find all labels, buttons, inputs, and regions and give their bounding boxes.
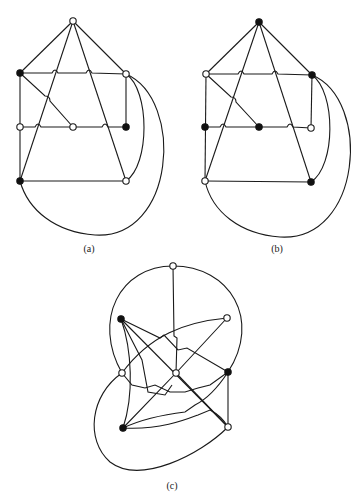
edge (206, 22, 259, 74)
node-bottom-left (120, 425, 126, 431)
edge (20, 21, 73, 181)
caption-a: (a) (83, 243, 94, 255)
node-upper-left (118, 316, 124, 322)
node-upper-right (224, 315, 230, 321)
panel-c: (c) (94, 263, 242, 492)
edge (73, 21, 126, 181)
edge (205, 181, 311, 182)
node-middle-center (70, 124, 76, 130)
node-upper-right (309, 72, 315, 78)
node-upper-left (203, 71, 209, 77)
caption-c: (c) (166, 480, 177, 492)
edge (173, 266, 177, 373)
edge (123, 372, 228, 428)
edge (259, 22, 312, 75)
panel-a: (a) (17, 18, 164, 255)
edge (121, 319, 172, 395)
node-upper-left (17, 70, 23, 76)
node-middle-right (225, 369, 231, 375)
panel-b: (b) (202, 19, 351, 255)
node-middle-left (202, 124, 208, 130)
edge (20, 70, 126, 74)
node-bottom-left (17, 178, 23, 184)
node-bottom-left (202, 178, 208, 184)
node-center (173, 370, 179, 376)
edge (176, 373, 228, 427)
edge (20, 21, 73, 73)
edge (206, 71, 312, 75)
node-top (170, 263, 176, 269)
edge (311, 75, 312, 128)
node-top (70, 18, 76, 24)
edge (173, 266, 242, 372)
node-upper-right (123, 71, 129, 77)
edge (20, 74, 164, 235)
node-bottom-right (308, 179, 314, 185)
node-bottom-right (123, 178, 129, 184)
node-middle-center (256, 124, 262, 130)
edge (205, 75, 350, 237)
edge (205, 22, 259, 181)
caption-b: (b) (271, 243, 283, 255)
node-middle-right (123, 124, 129, 130)
edge (121, 319, 228, 372)
node-bottom-right (225, 424, 231, 430)
graph-figure: (a) (b) (0, 0, 355, 500)
edge (73, 21, 126, 74)
node-middle-right (308, 125, 314, 131)
edge (259, 22, 311, 182)
node-middle-left (17, 124, 23, 130)
node-top (256, 19, 262, 25)
node-middle-left (119, 370, 125, 376)
